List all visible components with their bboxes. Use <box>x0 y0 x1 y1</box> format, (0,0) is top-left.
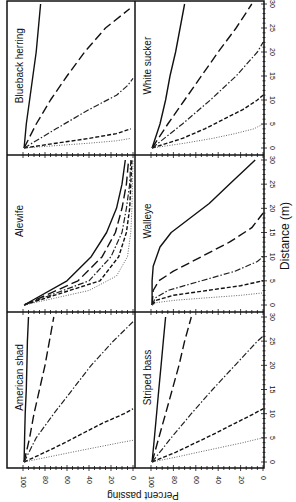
curve-solid <box>24 160 125 305</box>
panel-white-sucker <box>152 4 263 148</box>
distance-tick-label: 25 <box>269 337 276 345</box>
distance-tick-label: 5 <box>269 436 276 440</box>
curve-solid <box>24 4 40 148</box>
percent-tick-label: 60 <box>193 476 200 484</box>
distance-tick-label: 10 <box>269 410 276 418</box>
percent-tick-label: 100 <box>20 476 27 488</box>
distance-tick-label: 20 <box>269 204 276 212</box>
distance-tick-label: 15 <box>269 72 276 80</box>
panel-title: Striped bass <box>142 350 153 406</box>
percent-tick-label: 20 <box>238 476 245 484</box>
curve-dotted <box>24 138 131 148</box>
percent-tick-label: 80 <box>171 476 178 484</box>
distance-tick-label: 15 <box>269 386 276 394</box>
distance-tick-label: 10 <box>269 96 276 104</box>
curve-dotted <box>24 160 133 305</box>
panel-blueback-herring <box>24 4 133 148</box>
panel-walleye <box>152 160 263 305</box>
distance-tick-label: 5 <box>269 122 276 126</box>
panel-frames <box>7 1 264 468</box>
panel-title: American shad <box>14 344 25 411</box>
curve-dash-dot <box>152 336 263 462</box>
curve-long-dash <box>152 317 191 462</box>
curve-solid <box>152 317 166 462</box>
curve-short-dash <box>24 129 131 148</box>
curve-short-dash <box>24 409 133 462</box>
curve-dash-dot <box>152 257 263 305</box>
distance-tick-label: 5 <box>269 279 276 283</box>
curve-short-dash <box>152 409 263 462</box>
panel-title: Alewife <box>14 204 25 237</box>
panel-title: Blueback herring <box>14 28 25 103</box>
curve-long-dash <box>152 213 263 305</box>
panel-alewife <box>24 160 133 305</box>
y-axis-title: Percent passing <box>107 490 179 501</box>
curve-solid <box>152 160 255 305</box>
panel-title: Walleye <box>142 203 153 239</box>
percent-tick-label: 80 <box>42 476 49 484</box>
distance-tick-label: 30 <box>269 0 276 8</box>
curve-long-dash <box>24 317 54 462</box>
distance-tick-label: 30 <box>269 313 276 321</box>
axis-labels: Blueback herringAlewifeAmerican shadWhit… <box>14 0 292 501</box>
x-axis-title: Distance (m) <box>278 202 292 270</box>
distance-tick-label: 20 <box>269 48 276 56</box>
distance-tick-label: 15 <box>269 229 276 237</box>
distance-tick-label: 25 <box>269 180 276 188</box>
distance-tick-label: 30 <box>269 156 276 164</box>
curve-long-dash <box>152 4 252 148</box>
curve-long-dash <box>24 160 129 305</box>
curve-dash-dot <box>24 322 133 462</box>
distance-tick-label: 0 <box>269 460 276 464</box>
percent-tick-label: 60 <box>64 476 71 484</box>
curve-long-dash <box>24 9 130 148</box>
curve-dash-dot <box>24 78 133 148</box>
distance-tick-label: 10 <box>269 253 276 261</box>
panel-american-shad <box>24 317 133 462</box>
distance-tick-label: 25 <box>269 24 276 32</box>
percent-tick-label: 0 <box>260 476 267 480</box>
curve-dotted <box>152 293 263 305</box>
curve-short-dash <box>152 281 263 305</box>
percent-tick-label: 0 <box>130 476 137 480</box>
chart-figure: Blueback herringAlewifeAmerican shadWhit… <box>0 0 296 502</box>
distance-tick-label: 0 <box>269 303 276 307</box>
percent-tick-label: 100 <box>148 476 155 488</box>
panel-striped-bass <box>152 317 263 462</box>
percent-tick-label: 20 <box>108 476 115 484</box>
distance-tick-label: 0 <box>269 146 276 150</box>
distance-tick-label: 20 <box>269 361 276 369</box>
percent-tick-label: 40 <box>86 476 93 484</box>
curve-dotted <box>152 124 263 148</box>
curve-dash-dot <box>152 42 263 148</box>
panel-title: White sucker <box>142 36 153 94</box>
percent-tick-label: 40 <box>215 476 222 484</box>
curve-dotted <box>24 440 133 462</box>
